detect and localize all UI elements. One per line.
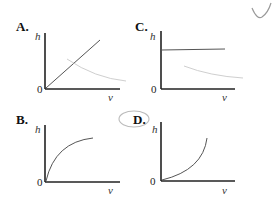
option-c-label: C. [135,19,148,34]
option-a-x-axis-label: v [108,91,113,103]
option-b-graph: B. h 0 v [16,112,120,196]
option-a-label: A. [16,19,29,34]
option-d-curve [162,138,207,180]
option-b-label: B. [16,112,28,127]
option-a-graph: A. h 0 v [16,19,126,103]
option-a-faint-curve [67,59,126,81]
option-b-curve [46,138,93,181]
option-b-x-axis-label: v [108,184,113,196]
option-d-graph: D. h 0 v [119,111,235,196]
option-c-x-axis-label: v [222,91,227,103]
option-d-x-axis-label: v [222,184,227,196]
option-b-origin-label: 0 [37,176,43,188]
option-a-curve [46,40,100,88]
check-mark-annotation [252,3,271,18]
option-d-origin-label: 0 [150,175,156,187]
option-c-graph: C. h 0 v [135,3,271,103]
option-a-origin-label: 0 [37,83,43,95]
option-c-faint-curve [184,66,243,78]
option-a-y-axis-label: h [35,30,41,42]
option-c-curve [161,49,225,50]
option-d-label: D. [133,112,146,127]
option-b-y-axis-label: h [35,123,41,135]
option-c-origin-label: 0 [151,83,157,95]
graph-options-diagram: A. h 0 v C. h 0 v B. h 0 v D. h 0 v [0,0,276,211]
option-d-y-axis-label: h [152,123,158,135]
option-c-y-axis-label: h [150,30,156,42]
